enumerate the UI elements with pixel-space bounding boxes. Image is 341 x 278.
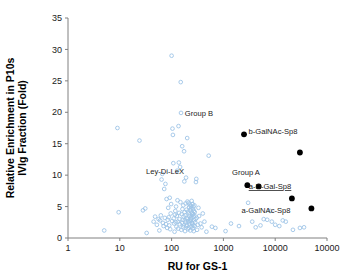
data-point-open [195,228,199,232]
data-point-highlighted [241,131,247,137]
data-point-open [167,224,171,228]
data-point-open [197,206,201,210]
data-point-open [160,178,164,182]
data-point-open [145,231,149,235]
data-point-open [298,226,302,230]
data-point-open [182,180,186,184]
data-point-open [182,149,186,153]
data-point-open [185,136,189,140]
data-point-open [180,144,184,148]
data-point-open [224,229,228,233]
data-point-open [184,176,188,180]
data-point-highlighted [309,206,315,212]
scatter-chart: 05101520253035 11010010001000010000 Grou… [0,0,341,278]
data-point-open [179,80,183,84]
data-point-open [250,220,254,224]
data-point-open [155,223,159,227]
data-point-open [207,154,211,158]
data-point-open [138,139,142,143]
data-point-open [229,222,233,226]
data-point-open [273,223,277,227]
y-tick-label: 0 [57,233,62,243]
data-point-open [177,161,181,165]
y-axis-title: Relative Enrichment in P10sIVIg Fraction… [4,58,28,199]
y-tick-label: 35 [52,13,62,23]
data-point-open [200,225,204,229]
data-point-open [173,209,177,213]
data-point-open [116,126,120,130]
data-point-highlighted [289,196,295,202]
data-point-open [162,187,166,191]
data-point-open [179,111,183,115]
x-tick-labels: 11010010001000010000 [65,243,339,253]
data-point-open [205,230,209,234]
axis-titles: RU for GS-1Relative Enrichment in P10sIV… [4,58,227,272]
y-axis-title-line1: Relative Enrichment in P10s [4,58,16,199]
y-tick-label: 30 [52,45,62,55]
data-point-open [302,225,306,229]
x-tick-label: 1 [65,243,70,253]
data-point-open [102,229,106,233]
point-label: Group A [232,168,261,177]
data-point-open [237,224,241,228]
point-label: b-GalNAc-Sp8 [249,127,298,136]
data-point-open [166,206,170,210]
chart-canvas: 05101520253035 11010010001000010000 Grou… [0,0,341,278]
point-label: Group B [185,109,213,118]
data-point-open [152,220,156,224]
data-point-open [254,225,258,229]
x-tick-label: 100 [164,243,179,253]
x-tick-label: 10000 [314,243,339,253]
point-label: a-D-Gal-Sp8 [249,182,292,191]
x-tick-label: 10000 [263,243,288,253]
data-point-open [159,214,163,218]
data-point-open [201,212,205,216]
data-point-open [270,220,274,224]
data-point-open [179,200,183,204]
data-point-open [153,215,157,219]
data-point-open [246,201,250,205]
data-point-open [117,210,121,214]
data-point-open [277,224,281,228]
data-point-open [169,202,173,206]
point-label: Ley-Di-LeX [146,167,184,176]
data-point-open [171,127,175,131]
data-point-open [158,229,162,233]
data-point-open [259,224,263,228]
x-tick-label: 1000 [213,243,233,253]
y-tick-label: 25 [52,76,62,86]
data-point-open [170,54,174,58]
y-tick-labels: 05101520253035 [52,13,62,243]
y-tick-label: 20 [52,107,62,117]
data-point-open [291,228,295,232]
data-point-open [171,133,175,137]
data-point-open [177,124,181,128]
y-tick-label: 10 [52,170,62,180]
data-point-highlighted [297,150,303,156]
data-point-open [171,161,175,165]
point-label: a-GalNAc-Sp8 [242,206,291,215]
data-point-open [173,230,177,234]
data-point-open [164,182,168,186]
data-point-open [214,226,218,230]
y-tick-label: 15 [52,139,62,149]
data-point-open [169,212,173,216]
y-axis-title-line2: IVIg Fraction (Fold) [16,80,28,176]
data-point-open [174,205,178,209]
x-axis-title: RU for GS-1 [168,260,228,272]
y-tick-label: 5 [57,202,62,212]
x-tick-label: 10 [115,243,125,253]
data-point-open [203,220,207,224]
